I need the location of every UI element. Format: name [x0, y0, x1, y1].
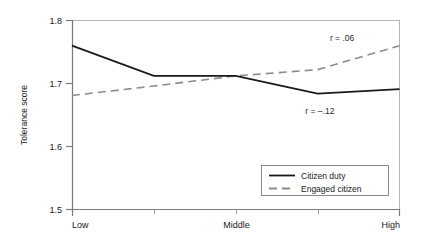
series-line-engaged-citizen: [72, 46, 400, 96]
y-tick-label-1-5: 1.5: [49, 205, 62, 215]
y-axis-title: Tolerance score: [19, 85, 29, 145]
x-tick-label-middle: Middle: [223, 220, 250, 230]
x-tick-label-high: High: [381, 220, 400, 230]
annotation-engaged-r: r = .06: [330, 33, 355, 43]
y-tick-label-1-8: 1.8: [49, 16, 62, 26]
chart-figure: 1.8 1.7 1.6 1.5 Tolerance score Low Midd…: [0, 0, 426, 248]
line-chart: 1.8 1.7 1.6 1.5 Tolerance score Low Midd…: [0, 0, 426, 248]
annotation-duty-r: r = –.12: [305, 106, 334, 116]
y-tick-label-1-6: 1.6: [49, 142, 62, 152]
y-tick-label-1-7: 1.7: [49, 79, 62, 89]
legend-label-citizen-duty: Citizen duty: [301, 171, 346, 181]
chart-legend: Citizen duty Engaged citizen: [262, 166, 389, 196]
legend-label-engaged-citizen: Engaged citizen: [301, 184, 362, 194]
y-axis: [66, 20, 73, 210]
series-line-citizen-duty: [72, 46, 400, 94]
x-tick-label-low: Low: [72, 220, 89, 230]
x-axis: [72, 209, 400, 216]
